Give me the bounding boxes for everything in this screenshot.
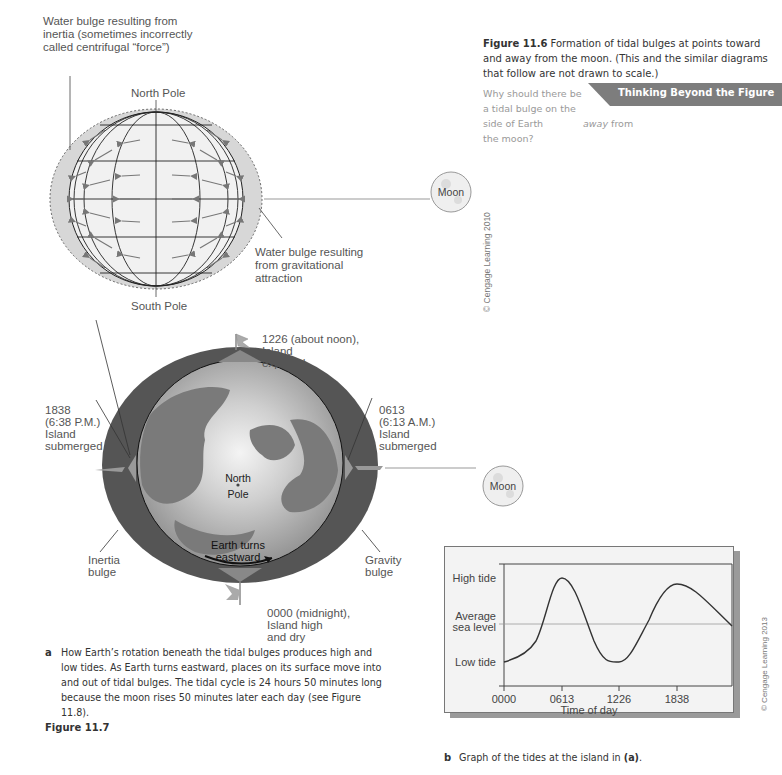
gravity-bulge-label-line1: Water bulge resulting xyxy=(255,246,363,259)
part-b-caption: Graph of the tides at the island in (a). xyxy=(459,750,642,765)
figure-11-6-caption: Figure 11.6 Formation of tidal bulges at… xyxy=(483,36,773,81)
gravity-bulge-a-line2: bulge xyxy=(365,566,393,579)
inertia-bulge-a-line2: bulge xyxy=(88,566,116,579)
x-tick-0000: 0000 xyxy=(492,693,516,705)
north-pole-label: North Pole xyxy=(131,87,185,100)
copyright-2010: © Cengage Learning 2010 xyxy=(482,212,492,312)
moon-label-a: Moon xyxy=(490,480,516,492)
thinking-question: Why should there be a tidal bulge on the… xyxy=(483,86,643,146)
figure-11-7-title: Figure 11.7 xyxy=(45,720,109,735)
inertia-bulge-label-line2: inertia (sometimes incorrectly xyxy=(43,28,193,41)
noon-label-line3: exposed xyxy=(262,357,305,370)
pole-label-a: Pole xyxy=(227,488,248,500)
inertia-bulge-label-line1: Water bulge resulting from xyxy=(43,15,177,28)
part-a-caption: How Earth’s rotation beneath the tidal b… xyxy=(61,645,391,720)
x-axis-label: Time of day xyxy=(560,704,618,716)
morning-label-line4: submerged xyxy=(379,440,437,453)
y-label-high: High tide xyxy=(453,572,496,584)
gravity-bulge-label-line3: attraction xyxy=(255,272,302,285)
inertia-bulge-label-line3: called centrifugal “force”) xyxy=(43,41,170,54)
copyright-2013: © Cengage Learning 2013 xyxy=(760,617,769,711)
x-tick-1838: 1838 xyxy=(665,693,689,705)
earth-turns-label-line1: Earth turns xyxy=(211,539,265,551)
north-pole-label-a: North xyxy=(225,472,251,484)
tide-curve xyxy=(504,578,732,662)
moon-label: Moon xyxy=(438,186,464,198)
part-a-letter: a xyxy=(45,645,52,660)
y-label-low: Low tide xyxy=(455,656,496,668)
y-label-sea-level: sea level xyxy=(453,621,496,633)
evening-label-line4: submerged xyxy=(45,440,103,453)
midnight-label-line3: and dry xyxy=(267,631,305,644)
earth-turns-label-line2: eastward xyxy=(216,551,261,563)
figure-11-6-label: Figure 11.6 xyxy=(483,38,547,49)
tide-chart: High tide Average sea level Low tide 000… xyxy=(444,546,744,716)
south-pole-label: South Pole xyxy=(131,300,187,313)
gravity-bulge-label-line2: from gravitational xyxy=(255,259,343,272)
part-b-letter: b xyxy=(444,750,451,765)
